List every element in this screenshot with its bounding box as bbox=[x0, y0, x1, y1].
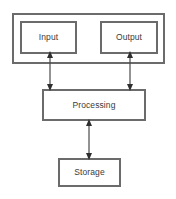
connector-output-processing bbox=[120, 50, 140, 92]
node-output-label: Output bbox=[116, 33, 142, 42]
block-diagram: Input Output Processing Storage bbox=[0, 0, 176, 199]
node-input-label: Input bbox=[39, 33, 58, 42]
node-storage[interactable]: Storage bbox=[58, 158, 121, 187]
node-processing[interactable]: Processing bbox=[42, 89, 146, 121]
connector-input-processing bbox=[40, 50, 60, 92]
node-processing-label: Processing bbox=[72, 101, 115, 110]
node-storage-label: Storage bbox=[74, 168, 104, 177]
connector-processing-storage bbox=[79, 118, 99, 161]
